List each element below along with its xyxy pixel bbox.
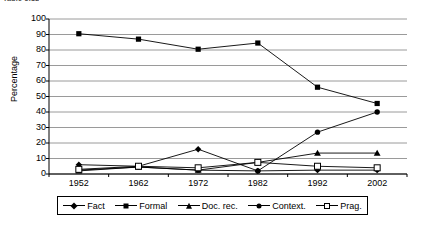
legend-label: Fact bbox=[87, 201, 105, 211]
legend-label: Context. bbox=[272, 201, 306, 211]
series-fact bbox=[76, 146, 381, 174]
data-point-marker bbox=[195, 165, 201, 171]
legend-item-fact[interactable]: Fact bbox=[63, 201, 105, 211]
legend-item-formal[interactable]: Formal bbox=[115, 201, 167, 211]
series-line bbox=[79, 34, 377, 104]
chart-legend: FactFormalDoc. rec.Context.Prag. bbox=[57, 196, 368, 215]
x-tick-label: 1952 bbox=[69, 178, 89, 188]
x-tick-label: 1972 bbox=[188, 178, 208, 188]
chart-container: Table 5.12 Percentage 010203040506070809… bbox=[0, 0, 424, 228]
data-point-marker bbox=[255, 168, 260, 173]
series-line bbox=[79, 112, 377, 171]
data-point-marker bbox=[255, 40, 260, 45]
legend-item-doc-rec[interactable]: Doc. rec. bbox=[178, 201, 238, 211]
x-tick-label: 1982 bbox=[248, 178, 268, 188]
legend-label: Formal bbox=[139, 201, 167, 211]
triangle-marker-icon bbox=[178, 201, 200, 211]
data-point-marker bbox=[136, 37, 141, 42]
data-point-marker bbox=[76, 166, 82, 172]
legend-item-prag[interactable]: Prag. bbox=[316, 201, 362, 211]
data-point-marker bbox=[374, 109, 379, 114]
data-point-marker bbox=[315, 129, 320, 134]
data-point-marker bbox=[315, 163, 321, 169]
data-point-marker bbox=[375, 101, 380, 106]
data-point-marker bbox=[76, 31, 81, 36]
square-marker-icon bbox=[115, 201, 137, 211]
plot-area bbox=[0, 0, 424, 228]
series-context bbox=[76, 109, 380, 173]
legend-label: Prag. bbox=[340, 201, 362, 211]
legend-label: Doc. rec. bbox=[202, 201, 238, 211]
x-tick-label: 1962 bbox=[128, 178, 148, 188]
diamond-marker-icon bbox=[63, 201, 85, 211]
data-point-marker bbox=[374, 165, 380, 171]
legend-item-context[interactable]: Context. bbox=[248, 201, 306, 211]
circle-marker-icon bbox=[248, 201, 270, 211]
series-formal bbox=[76, 31, 380, 106]
data-point-marker bbox=[255, 159, 261, 165]
x-tick-label: 1992 bbox=[307, 178, 327, 188]
x-tick-label: 2002 bbox=[367, 178, 387, 188]
data-point-marker bbox=[196, 47, 201, 52]
data-point-marker bbox=[136, 163, 142, 169]
data-point-marker bbox=[315, 85, 320, 90]
open-square-marker-icon bbox=[316, 201, 338, 211]
data-point-marker bbox=[195, 146, 201, 152]
